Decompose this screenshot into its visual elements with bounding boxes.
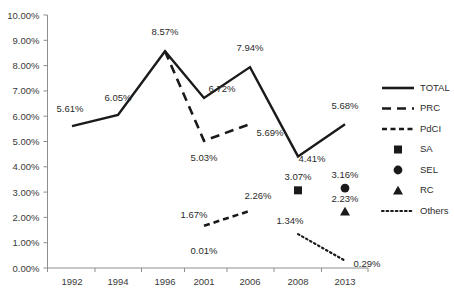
legend-label-rc: RC xyxy=(420,184,434,195)
data-label-others: 0.29% xyxy=(354,258,381,269)
legend-label-pdci: PdCI xyxy=(420,123,441,134)
x-axis-tick-label: 1996 xyxy=(154,276,175,287)
data-label-total: 5.61% xyxy=(57,103,84,114)
x-axis-tick-label: 1992 xyxy=(61,276,82,287)
legend-label-prc: PRC xyxy=(420,102,440,113)
data-label-prc: 5.03% xyxy=(191,152,218,163)
data-label-prc: 5.69% xyxy=(257,127,284,138)
data-label-total: 6.72% xyxy=(209,83,236,94)
y-axis-tick-label: 1.00% xyxy=(13,237,40,248)
x-axis-tick-label: 2001 xyxy=(193,276,214,287)
data-label-total: 7.94% xyxy=(237,42,264,53)
y-axis-tick-label: 4.00% xyxy=(13,161,40,172)
legend-glyph-square-marker xyxy=(394,146,402,154)
data-label-rc: 2.23% xyxy=(332,193,359,204)
legend-label-sa: SA xyxy=(420,143,433,154)
y-axis-tick-label: 7.00% xyxy=(13,85,40,96)
data-label-pdci: 2.26% xyxy=(245,190,272,201)
y-axis-tick-label: 5.00% xyxy=(13,136,40,147)
data-label-total: 5.68% xyxy=(332,100,359,111)
data-label-sa: 3.07% xyxy=(285,171,312,182)
y-axis-tick-label: 6.00% xyxy=(13,111,40,122)
data-label-sel: 3.16% xyxy=(332,169,359,180)
y-axis-tick-label: 9.00% xyxy=(13,35,40,46)
data-label-others: 1.34% xyxy=(277,215,304,226)
marker-sa xyxy=(294,186,302,194)
line-chart: 10.00%9.00%8.00%7.00%6.00%5.00%4.00%3.00… xyxy=(0,0,454,303)
data-label-total: 8.57% xyxy=(152,26,179,37)
x-axis-tick-label: 2013 xyxy=(334,276,355,287)
legend-label-others: Others xyxy=(420,205,449,216)
legend-glyph-circle-marker xyxy=(394,166,403,175)
marker-sel xyxy=(341,184,350,193)
legend-label-sel: SEL xyxy=(420,164,438,175)
y-axis-tick-label: 3.00% xyxy=(13,187,40,198)
data-label-pdci: 1.67% xyxy=(181,209,208,220)
chart-background xyxy=(0,0,454,303)
x-axis-tick-label: 2008 xyxy=(287,276,308,287)
chart-container: 10.00%9.00%8.00%7.00%6.00%5.00%4.00%3.00… xyxy=(0,0,454,303)
y-axis-tick-label: 0.00% xyxy=(13,263,40,274)
data-label-total: 4.41% xyxy=(299,153,326,164)
y-axis-tick-label: 2.00% xyxy=(13,212,40,223)
data-label-total: 6.05% xyxy=(105,92,132,103)
x-axis-tick-label: 2006 xyxy=(239,276,260,287)
legend-label-total: TOTAL xyxy=(420,82,450,93)
y-axis-tick-label: 8.00% xyxy=(13,60,40,71)
x-axis-tick-label: 1994 xyxy=(107,276,128,287)
y-axis-tick-label: 10.00% xyxy=(7,10,40,21)
data-label-annotation: 0.01% xyxy=(191,245,218,256)
